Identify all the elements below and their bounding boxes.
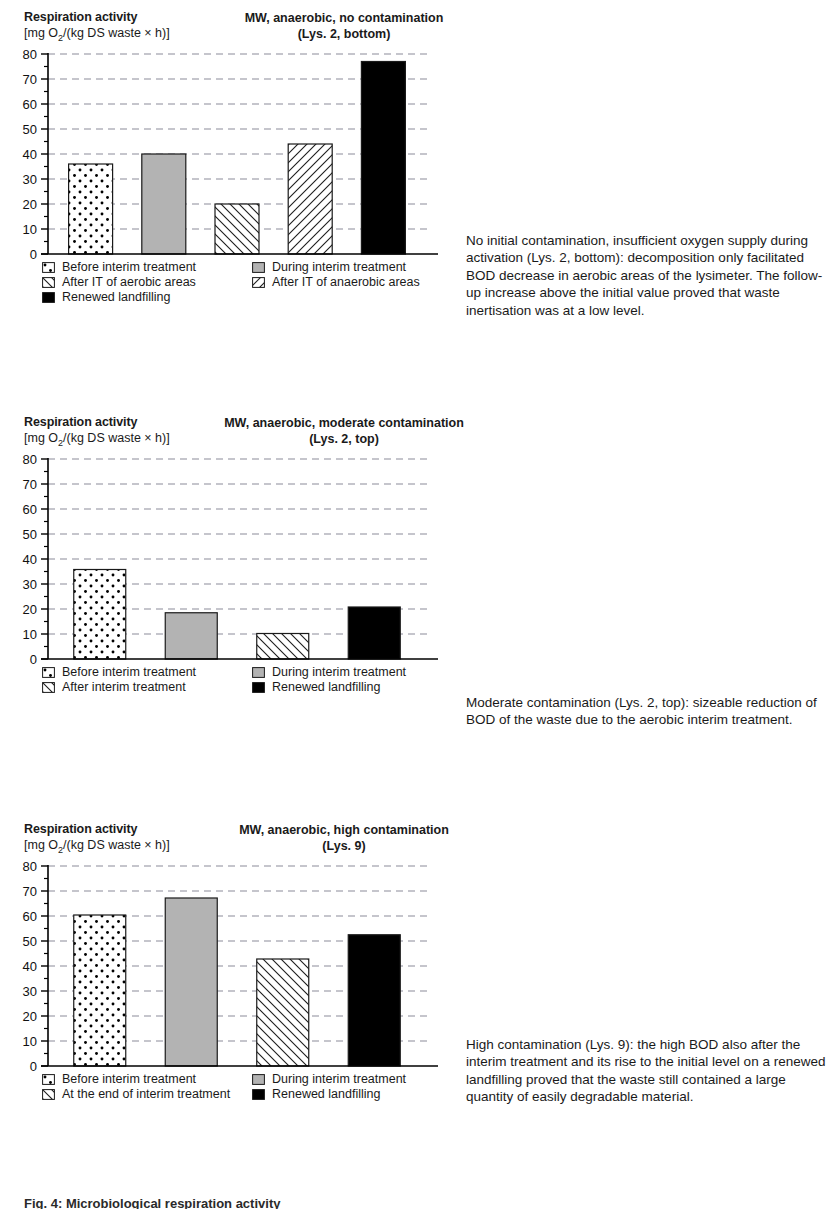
y-axis-tick-label: 40 — [23, 552, 37, 567]
bar — [348, 935, 400, 1066]
panel-title-line2: (Lys. 2, bottom) — [298, 27, 391, 41]
y-axis-tick-label: 60 — [23, 502, 37, 517]
y-axis-unit: [mg O2/(kg DS waste × h)] — [24, 431, 170, 448]
bar — [215, 204, 259, 254]
legend-swatch-hatch-fwd-icon — [252, 277, 265, 288]
y-axis-tick-label: 80 — [23, 452, 37, 467]
y-axis-title: Respiration activity — [24, 415, 137, 429]
plot-area: 01020304050607080 — [0, 46, 470, 272]
legend-swatch-gray-icon — [252, 1074, 265, 1085]
plot-area: 01020304050607080 — [0, 451, 470, 677]
legend-item: Before interim treatment — [42, 260, 252, 275]
legend-item: After IT of anaerobic areas — [252, 275, 482, 290]
y-axis-tick-label: 10 — [23, 1034, 37, 1049]
panel-title-line1: MW, anaerobic, moderate contamination — [224, 416, 464, 430]
legend-label: Renewed landfilling — [62, 290, 170, 305]
y-axis-tick-label: 60 — [23, 909, 37, 924]
legend-row: Before interim treatmentDuring interim t… — [42, 1072, 482, 1087]
note-text-1: No initial contamination, insufficient o… — [466, 232, 828, 319]
panel-title: MW, anaerobic, no contamination (Lys. 2,… — [218, 10, 470, 42]
y-axis-tick-label: 10 — [23, 627, 37, 642]
chart-panel-3: Respiration activity [mg O2/(kg DS waste… — [0, 822, 470, 1084]
y-axis-tick-label: 50 — [23, 122, 37, 137]
legend-label: Before interim treatment — [62, 1072, 196, 1087]
y-axis-tick-label: 40 — [23, 959, 37, 974]
legend-label: Renewed landfilling — [272, 680, 380, 695]
y-axis-tick-label: 30 — [23, 172, 37, 187]
plot-area: 01020304050607080 — [0, 858, 470, 1084]
y-axis-tick-label: 50 — [23, 934, 37, 949]
y-axis-tick-label: 80 — [23, 47, 37, 62]
legend-label: During interim treatment — [272, 260, 406, 275]
y-axis-tick-label: 0 — [30, 1059, 37, 1074]
legend-row: Before interim treatmentDuring interim t… — [42, 665, 482, 680]
legend-label: Before interim treatment — [62, 665, 196, 680]
chart-panel-2: Respiration activity [mg O2/(kg DS waste… — [0, 415, 470, 677]
legend-row: Renewed landfilling — [42, 290, 482, 305]
bar — [165, 613, 217, 659]
bar — [74, 570, 126, 660]
y-axis-tick-label: 70 — [23, 884, 37, 899]
bar — [361, 62, 405, 255]
legend-swatch-black-icon — [252, 682, 265, 693]
chart-legend: Before interim treatmentDuring interim t… — [42, 665, 482, 695]
legend-swatch-gray-icon — [252, 262, 265, 273]
panel-header: Respiration activity [mg O2/(kg DS waste… — [0, 10, 470, 46]
legend-swatch-hatch-back-icon — [42, 1089, 55, 1100]
y-axis-tick-label: 70 — [23, 477, 37, 492]
panel-title-line1: MW, anaerobic, high contamination — [239, 823, 449, 837]
legend-row: After IT of aerobic areasAfter IT of ana… — [42, 275, 482, 290]
legend-label: After IT of aerobic areas — [62, 275, 196, 290]
legend-item: After IT of aerobic areas — [42, 275, 252, 290]
legend-row: Before interim treatmentDuring interim t… — [42, 260, 482, 275]
chart-panel-1: Respiration activity [mg O2/(kg DS waste… — [0, 10, 470, 272]
y-axis-tick-label: 20 — [23, 602, 37, 617]
bar-chart-svg: 01020304050607080 — [0, 858, 440, 1084]
legend-item: Renewed landfilling — [42, 290, 252, 305]
bar-chart-svg: 01020304050607080 — [0, 451, 440, 677]
y-axis-tick-label: 0 — [30, 247, 37, 262]
chart-legend: Before interim treatmentDuring interim t… — [42, 1072, 482, 1102]
legend-swatch-black-icon — [42, 292, 55, 303]
legend-row: After interim treatmentRenewed landfilli… — [42, 680, 482, 695]
legend-label: At the end of interim treatment — [62, 1087, 230, 1102]
legend-swatch-dots-icon — [42, 667, 55, 678]
legend-item: Before interim treatment — [42, 665, 252, 680]
bar — [69, 164, 113, 254]
panel-title: MW, anaerobic, high contamination (Lys. … — [218, 822, 470, 854]
y-axis-unit: [mg O2/(kg DS waste × h)] — [24, 26, 170, 43]
legend-label: During interim treatment — [272, 1072, 406, 1087]
legend-item: At the end of interim treatment — [42, 1087, 252, 1102]
legend-swatch-dots-icon — [42, 1074, 55, 1085]
chart-legend: Before interim treatmentDuring interim t… — [42, 260, 482, 305]
note-text-2: Moderate contamination (Lys. 2, top): si… — [466, 694, 828, 729]
legend-swatch-black-icon — [252, 1089, 265, 1100]
legend-item: Renewed landfilling — [252, 1087, 482, 1102]
panel-title-line1: MW, anaerobic, no contamination — [245, 11, 444, 25]
legend-swatch-hatch-back-icon — [42, 682, 55, 693]
y-axis-tick-label: 20 — [23, 1009, 37, 1024]
legend-item: Before interim treatment — [42, 1072, 252, 1087]
y-axis-tick-label: 70 — [23, 72, 37, 87]
y-axis-tick-label: 30 — [23, 984, 37, 999]
y-axis-tick-label: 50 — [23, 527, 37, 542]
y-axis-tick-label: 10 — [23, 222, 37, 237]
panel-header: Respiration activity [mg O2/(kg DS waste… — [0, 822, 470, 858]
legend-swatch-gray-icon — [252, 667, 265, 678]
panel-title: MW, anaerobic, moderate contamination (L… — [218, 415, 470, 447]
legend-item: During interim treatment — [252, 665, 482, 680]
legend-swatch-dots-icon — [42, 262, 55, 273]
y-axis-tick-label: 60 — [23, 97, 37, 112]
legend-row: At the end of interim treatmentRenewed l… — [42, 1087, 482, 1102]
bar — [348, 607, 400, 659]
legend-item: During interim treatment — [252, 260, 482, 275]
panel-header: Respiration activity [mg O2/(kg DS waste… — [0, 415, 470, 451]
y-axis-title: Respiration activity — [24, 822, 137, 836]
bar-chart-svg: 01020304050607080 — [0, 46, 440, 272]
bar — [257, 634, 309, 660]
panel-title-line2: (Lys. 9) — [322, 839, 365, 853]
bar — [142, 154, 186, 254]
y-axis-tick-label: 30 — [23, 577, 37, 592]
legend-label: Renewed landfilling — [272, 1087, 380, 1102]
legend-label: Before interim treatment — [62, 260, 196, 275]
